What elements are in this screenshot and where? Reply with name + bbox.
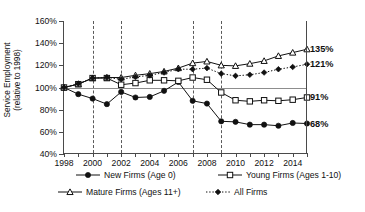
x-tick-label: 2010 bbox=[226, 158, 245, 168]
data-point bbox=[147, 94, 152, 99]
x-tick-label: 2014 bbox=[283, 158, 302, 168]
x-tick-label: 1998 bbox=[54, 158, 73, 168]
legend-marker-open-square bbox=[217, 170, 243, 180]
plot-area: 40%60%80%100%120%140%160% 19982000200220… bbox=[63, 21, 306, 154]
data-point bbox=[119, 89, 124, 94]
data-point bbox=[176, 78, 181, 83]
data-point bbox=[204, 58, 210, 64]
data-point bbox=[204, 101, 209, 106]
data-point bbox=[261, 70, 267, 76]
legend-marker-filled-circle bbox=[75, 170, 101, 180]
legend-item[interactable]: Young Firms (Ages 1-10) bbox=[217, 170, 341, 180]
series-young-firms-ages-1-10 bbox=[61, 75, 309, 104]
data-point bbox=[190, 98, 195, 103]
data-point bbox=[233, 73, 239, 79]
data-point bbox=[90, 96, 95, 101]
y-tick-label: 140% bbox=[35, 38, 57, 48]
data-point bbox=[290, 120, 295, 125]
y-tick-label: 60% bbox=[40, 127, 57, 137]
data-point bbox=[218, 71, 224, 77]
data-point bbox=[104, 102, 109, 107]
x-tick-label: 2000 bbox=[83, 158, 102, 168]
legend-item[interactable]: Mature Firms (Ages 11+) bbox=[57, 187, 181, 197]
y-axis-title-line2: (relative to 1998) bbox=[13, 49, 22, 110]
y-axis-title-line1: Service Employment bbox=[3, 42, 12, 117]
data-point bbox=[276, 98, 281, 103]
data-point bbox=[261, 98, 266, 103]
chart-figure: Service Employment (relative to 1998) 40… bbox=[0, 0, 365, 212]
data-point bbox=[133, 80, 138, 85]
x-tick-label: 2006 bbox=[169, 158, 188, 168]
data-point bbox=[133, 95, 138, 100]
data-point bbox=[290, 64, 296, 70]
end-label-open-square: 91% bbox=[310, 92, 328, 102]
end-label-filled-diamond: 121% bbox=[310, 59, 334, 69]
data-point bbox=[204, 65, 210, 71]
series-new-firms-age-0 bbox=[61, 79, 309, 128]
x-tick-label: 2004 bbox=[140, 158, 159, 168]
y-tick-label: 80% bbox=[40, 105, 57, 115]
series-mature-firms-ages-11 bbox=[61, 46, 310, 90]
x-tick bbox=[307, 153, 308, 157]
data-point bbox=[233, 119, 238, 124]
data-point bbox=[247, 72, 253, 78]
legend-label: Young Firms (Ages 1-10) bbox=[246, 170, 341, 180]
data-point bbox=[276, 123, 281, 128]
data-point bbox=[204, 77, 209, 82]
data-point bbox=[247, 122, 252, 127]
right-axis-spine bbox=[306, 21, 307, 154]
end-label-filled-circle: 68% bbox=[310, 119, 328, 129]
x-tick-label: 2012 bbox=[255, 158, 274, 168]
data-point bbox=[219, 119, 224, 124]
data-point bbox=[161, 78, 166, 83]
legend-item[interactable]: New Firms (Age 0) bbox=[75, 170, 176, 180]
data-point bbox=[190, 75, 195, 80]
data-point bbox=[219, 90, 224, 95]
legend-label: Mature Firms (Ages 11+) bbox=[86, 187, 181, 197]
data-point bbox=[276, 66, 282, 72]
data-point bbox=[233, 98, 238, 103]
data-point bbox=[161, 88, 166, 93]
end-label-open-triangle: 135% bbox=[310, 44, 334, 54]
y-tick-label: 160% bbox=[35, 16, 57, 26]
x-tick-label: 2002 bbox=[112, 158, 131, 168]
chart-legend: New Firms (Age 0)Young Firms (Ages 1-10)… bbox=[57, 170, 362, 206]
data-point bbox=[76, 92, 81, 97]
series-layer bbox=[64, 21, 307, 154]
y-tick-label: 100% bbox=[35, 83, 57, 93]
legend-marker-open-triangle bbox=[57, 187, 83, 197]
x-tick-label: 2008 bbox=[197, 158, 216, 168]
legend-label: New Firms (Age 0) bbox=[104, 170, 176, 180]
legend-label: All Firms bbox=[234, 187, 267, 197]
data-point bbox=[247, 99, 252, 104]
y-tick-label: 120% bbox=[35, 60, 57, 70]
data-point bbox=[290, 97, 295, 102]
legend-item[interactable]: All Firms bbox=[205, 187, 267, 197]
legend-marker-filled-diamond bbox=[205, 187, 231, 197]
data-point bbox=[190, 66, 196, 72]
y-axis-title: Service Employment (relative to 1998) bbox=[0, 10, 26, 150]
data-point bbox=[118, 82, 123, 87]
data-point bbox=[262, 122, 267, 127]
